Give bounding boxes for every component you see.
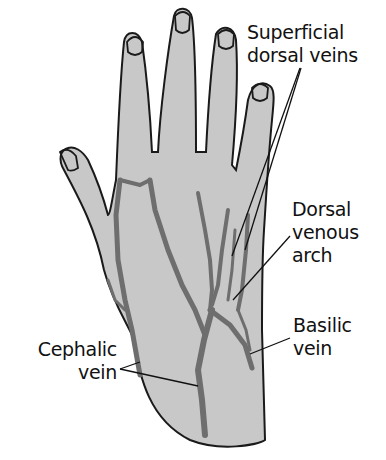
hand-vein-diagram: Superficial dorsal veins Dorsal venous a… (0, 0, 386, 460)
label-line: Superficial (247, 21, 358, 44)
label-basilic-vein: Basilic vein (293, 314, 352, 360)
label-line: vein (27, 361, 117, 384)
label-line: arch (292, 244, 359, 267)
label-line: venous (292, 221, 359, 244)
label-cephalic-vein: Cephalic vein (27, 338, 117, 384)
label-superficial-dorsal-veins: Superficial dorsal veins (247, 21, 358, 67)
label-dorsal-venous-arch: Dorsal venous arch (292, 198, 359, 267)
label-line: Basilic (293, 314, 352, 337)
label-line: vein (293, 337, 352, 360)
label-line: Dorsal (292, 198, 359, 221)
label-line: dorsal veins (247, 44, 358, 67)
label-line: Cephalic (27, 338, 117, 361)
